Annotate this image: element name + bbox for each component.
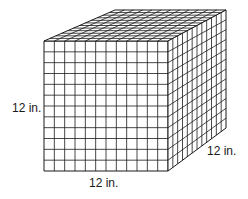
width-label: 12 in. (89, 177, 118, 189)
depth-label: 12 in. (207, 145, 236, 157)
height-label: 12 in. (12, 102, 41, 114)
cube-diagram (0, 0, 248, 199)
cube-front-face (44, 41, 168, 171)
